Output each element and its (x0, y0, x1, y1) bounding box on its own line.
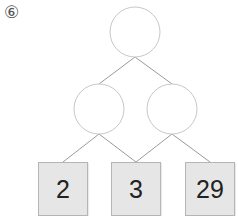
root-node (110, 7, 160, 57)
leaf-box: 29 (185, 162, 235, 216)
leaf-box: 2 (38, 162, 88, 216)
leaf-box: 3 (111, 162, 161, 216)
middle-node-left (74, 84, 124, 134)
middle-node-right (147, 84, 197, 134)
